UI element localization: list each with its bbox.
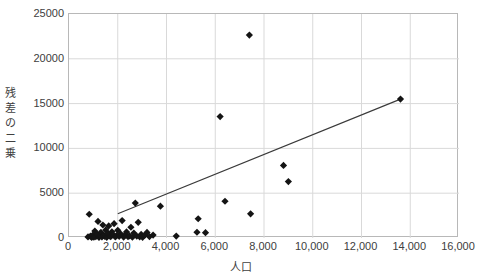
y-axis-ticks: 0500010000150002000025000 bbox=[0, 13, 64, 237]
data-point-marker bbox=[285, 178, 292, 185]
data-point-marker bbox=[246, 31, 253, 38]
data-points bbox=[69, 14, 457, 236]
scatter-chart: 残差の二乗 0500010000150002000025000 02,0004,… bbox=[0, 0, 482, 280]
data-point-marker bbox=[221, 198, 228, 205]
x-tick-label: 0 bbox=[65, 240, 71, 252]
y-tick-label: 0 bbox=[2, 231, 64, 243]
data-point-marker bbox=[157, 203, 164, 210]
x-tick-label: 8,000 bbox=[249, 240, 277, 252]
plot-area bbox=[68, 13, 458, 237]
data-point-marker bbox=[202, 229, 209, 236]
x-tick-label: 6,000 bbox=[200, 240, 228, 252]
data-point-marker bbox=[173, 233, 180, 240]
x-tick-label: 10,000 bbox=[295, 240, 329, 252]
data-point-marker bbox=[195, 215, 202, 222]
data-point-marker bbox=[280, 162, 287, 169]
data-point-marker bbox=[127, 224, 134, 231]
x-tick-label: 4,000 bbox=[152, 240, 180, 252]
x-axis-title: 人口 bbox=[0, 258, 482, 274]
y-tick-label: 25000 bbox=[2, 7, 64, 19]
data-point-marker bbox=[193, 229, 200, 236]
data-point-marker bbox=[217, 113, 224, 120]
y-tick-label: 15000 bbox=[2, 97, 64, 109]
data-point-marker bbox=[119, 217, 126, 224]
y-tick-label: 5000 bbox=[2, 186, 64, 198]
data-point-marker bbox=[247, 210, 254, 217]
data-point-marker bbox=[86, 211, 93, 218]
x-axis-ticks: 02,0004,0006,0008,00010,00012,00014,0001… bbox=[68, 240, 458, 258]
y-tick-label: 10000 bbox=[2, 141, 64, 153]
y-tick-label: 20000 bbox=[2, 52, 64, 64]
data-point-marker bbox=[397, 96, 404, 103]
x-tick-label: 2,000 bbox=[103, 240, 131, 252]
data-point-marker bbox=[135, 219, 142, 226]
x-tick-label: 12,000 bbox=[344, 240, 378, 252]
data-point-marker bbox=[132, 199, 139, 206]
x-tick-label: 16,000 bbox=[441, 240, 475, 252]
x-tick-label: 14,000 bbox=[392, 240, 426, 252]
